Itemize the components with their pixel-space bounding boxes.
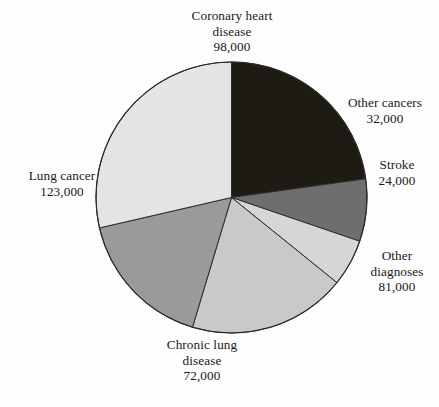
slice-label-lung-cancer: Lung cancer 123,000 bbox=[8, 168, 116, 199]
slice-label-value: 123,000 bbox=[8, 184, 116, 200]
slice-label-name-line1: Stroke bbox=[357, 157, 437, 173]
slice-label-stroke: Stroke 24,000 bbox=[357, 157, 437, 188]
slice-label-name-line1: Lung cancer bbox=[8, 168, 116, 184]
pie-chart: Coronary heart disease 98,000 Other canc… bbox=[0, 0, 439, 407]
slice-label-value: 24,000 bbox=[357, 173, 437, 189]
slice-label-name-line1: Other bbox=[357, 248, 437, 264]
slice-label-name-line1: Other cancers bbox=[333, 95, 437, 111]
slice-label-other-cancers: Other cancers 32,000 bbox=[333, 95, 437, 126]
slice-label-other-diagnoses: Other diagnoses 81,000 bbox=[357, 248, 437, 295]
slice-label-value: 81,000 bbox=[357, 279, 437, 295]
slice-label-name-line2: disease bbox=[148, 24, 316, 40]
pie-slice-chd bbox=[232, 62, 366, 198]
slice-label-coronary-heart-disease: Coronary heart disease 98,000 bbox=[148, 8, 316, 55]
slice-label-name-line2: disease bbox=[130, 353, 274, 369]
slice-label-chronic-lung-disease: Chronic lung disease 72,000 bbox=[130, 337, 274, 384]
pie-slice-group bbox=[96, 62, 367, 333]
slice-label-name-line2: diagnoses bbox=[357, 264, 437, 280]
slice-label-name-line1: Coronary heart bbox=[148, 8, 316, 24]
slice-label-value: 72,000 bbox=[130, 368, 274, 384]
slice-label-name-line1: Chronic lung bbox=[130, 337, 274, 353]
slice-label-value: 32,000 bbox=[333, 111, 437, 127]
slice-label-value: 98,000 bbox=[148, 39, 316, 55]
